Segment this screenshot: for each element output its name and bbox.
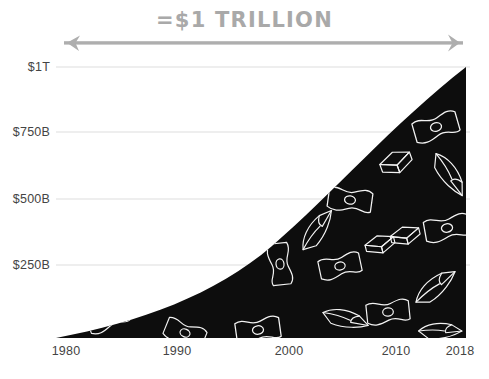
- plot-area: [0, 0, 489, 379]
- x-tick-label-2000: 2000: [275, 344, 304, 358]
- area-series-fill: [56, 67, 466, 338]
- y-tick-label-500b: $500B: [13, 192, 50, 206]
- y-axis-labels: $1T $750B $500B $250B: [0, 0, 50, 379]
- chart-container: =$1 TRILLION: [0, 0, 489, 379]
- x-tick-label-2018: 2018: [446, 344, 475, 358]
- y-tick-label-250b: $250B: [13, 258, 50, 272]
- x-tick-label-1980: 1980: [52, 344, 81, 358]
- x-tick-label-2010: 2010: [382, 344, 411, 358]
- x-tick-label-1990: 1990: [163, 344, 192, 358]
- y-tick-label-1t: $1T: [28, 60, 50, 74]
- x-axis-labels: 1980 1990 2000 2010 2018: [0, 344, 489, 368]
- y-tick-label-750b: $750B: [13, 125, 50, 139]
- area-chart-svg: [0, 0, 489, 379]
